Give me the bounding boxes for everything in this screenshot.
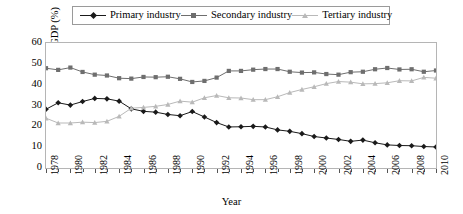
data-point <box>299 131 305 137</box>
x-tick-mark <box>70 169 71 173</box>
data-point <box>384 142 390 148</box>
plot-area <box>45 42 437 169</box>
data-point <box>153 109 159 115</box>
data-point <box>214 120 220 126</box>
x-axis-title: Year <box>0 196 463 207</box>
y-axis-ticks: 0102030405060 <box>18 42 42 169</box>
data-point <box>189 109 195 115</box>
data-point <box>349 70 353 74</box>
x-tick-mark <box>119 169 120 173</box>
data-point <box>421 144 427 150</box>
data-point <box>288 70 292 74</box>
x-tick-mark <box>436 169 437 173</box>
x-tick-label: 2006 <box>391 155 401 175</box>
data-point <box>336 73 340 77</box>
x-tick-label: 2004 <box>367 155 377 175</box>
legend-marker-tertiary-industry <box>292 11 318 21</box>
data-point <box>177 113 183 119</box>
data-point <box>324 135 330 141</box>
x-tick-mark <box>95 169 96 173</box>
chart-legend: Primary industry Secondary industry Tert… <box>72 6 390 25</box>
data-point <box>214 93 219 98</box>
data-point <box>166 75 170 79</box>
x-tick-label: 1988 <box>172 155 182 175</box>
data-point <box>300 70 304 74</box>
x-tick-mark <box>144 169 145 173</box>
data-point <box>68 102 74 108</box>
data-point <box>105 73 109 77</box>
x-tick-mark <box>46 169 47 173</box>
x-tick-mark <box>290 169 291 173</box>
data-point <box>361 70 365 74</box>
x-tick-mark <box>314 169 315 173</box>
data-point <box>238 124 244 130</box>
data-point <box>80 99 86 105</box>
data-point <box>116 98 122 104</box>
x-tick-label: 2000 <box>318 155 328 175</box>
data-point <box>410 67 414 71</box>
y-tick-label: 20 <box>20 120 42 131</box>
y-tick-label: 10 <box>20 141 42 152</box>
x-tick-label: 1986 <box>148 155 158 175</box>
data-point <box>433 144 436 150</box>
data-point <box>93 73 97 77</box>
x-tick-mark <box>168 169 169 173</box>
y-tick-label: 50 <box>20 58 42 69</box>
data-point <box>275 67 279 71</box>
x-tick-label: 1996 <box>269 155 279 175</box>
data-point <box>202 79 206 83</box>
data-point <box>46 116 49 121</box>
data-point <box>202 114 208 120</box>
data-point <box>68 65 72 69</box>
data-point <box>372 140 378 146</box>
x-tick-label: 1998 <box>294 155 304 175</box>
data-point <box>178 77 182 81</box>
legend-marker-primary-industry <box>80 11 106 21</box>
data-point <box>385 66 389 70</box>
data-point <box>251 68 255 72</box>
data-point <box>46 66 48 70</box>
data-point <box>239 69 243 73</box>
data-point <box>190 80 194 84</box>
data-point <box>311 134 317 140</box>
data-point <box>56 68 60 72</box>
data-point <box>312 70 316 74</box>
y-tick-label: 30 <box>20 99 42 110</box>
y-tick-label: 0 <box>20 162 42 173</box>
data-point <box>263 124 269 130</box>
data-point <box>104 96 110 102</box>
data-point <box>275 127 281 133</box>
data-point <box>434 68 436 72</box>
data-point <box>46 106 49 112</box>
data-point <box>250 124 256 130</box>
data-point <box>422 70 426 74</box>
data-point <box>226 124 232 130</box>
x-tick-label: 1992 <box>221 155 231 175</box>
x-tick-label: 2008 <box>416 155 426 175</box>
data-point <box>215 75 219 79</box>
x-tick-label: 1982 <box>99 155 109 175</box>
legend-label-tertiary-industry: Tertiary industry <box>322 10 392 21</box>
data-point <box>80 70 84 74</box>
legend-marker-secondary-industry <box>181 11 207 21</box>
y-tick-label: 40 <box>20 78 42 89</box>
legend-label-primary-industry: Primary industry <box>110 10 181 21</box>
data-point <box>263 67 267 71</box>
data-point <box>360 137 366 143</box>
x-tick-label: 1994 <box>245 155 255 175</box>
data-point <box>92 96 98 102</box>
x-tick-label: 1980 <box>74 155 84 175</box>
data-point <box>287 129 293 135</box>
legend-item-primary-industry: Primary industry <box>80 10 181 21</box>
data-point <box>397 143 403 149</box>
x-tick-mark <box>363 169 364 173</box>
data-point <box>129 77 133 81</box>
data-point <box>117 114 122 119</box>
data-point <box>227 69 231 73</box>
data-point <box>165 112 171 118</box>
x-tick-mark <box>265 169 266 173</box>
x-tick-mark <box>217 169 218 173</box>
data-point <box>55 100 61 106</box>
series-lines <box>46 43 436 168</box>
y-tick-label: 60 <box>20 37 42 48</box>
